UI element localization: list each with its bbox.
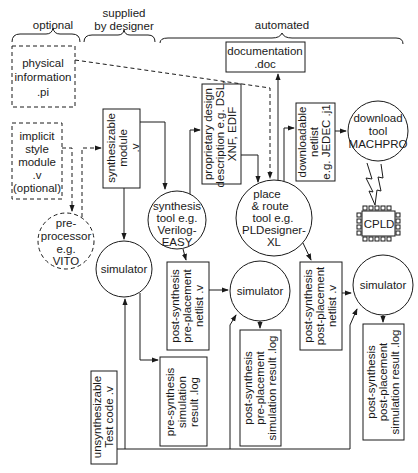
- svg-text:post-placement: post-placement: [377, 342, 389, 421]
- svg-text:synthesis: synthesis: [153, 200, 201, 212]
- header-automated: automated: [160, 19, 403, 44]
- svg-text:e.g.: e.g.: [56, 243, 75, 255]
- arrow-test-code-to-simulator2: [230, 315, 236, 449]
- svg-text:simulation result .log: simulation result .log: [389, 330, 401, 435]
- implicit-style-module-box: implicit style module .v (optional): [12, 123, 62, 199]
- arrow-synth-module-to-synthesis-tool: [140, 122, 165, 189]
- svg-text:unsynthesizable: unsynthesizable: [91, 376, 103, 458]
- arrow-synthesis-tool-to-netlist: [183, 249, 186, 260]
- svg-text:module: module: [18, 156, 56, 168]
- place-and-route-circle: place & route tool e.g. PLDesigner- XL: [236, 180, 312, 256]
- arrow-test-code-to-simulator3: [350, 309, 357, 449]
- svg-text:processor: processor: [41, 230, 92, 242]
- svg-text:synthesizable: synthesizable: [105, 113, 117, 183]
- svg-text:post-synthesis: post-synthesis: [365, 345, 377, 419]
- svg-text:MACHPRO: MACHPRO: [349, 138, 408, 150]
- svg-text:result .log: result .log: [188, 377, 200, 427]
- svg-text:description e.g. DSL,: description e.g. DSL,: [214, 81, 226, 188]
- cpld-chip-icon: CPLD: [357, 206, 400, 241]
- svg-text:post-placement: post-placement: [314, 266, 326, 345]
- svg-text:CPLD: CPLD: [364, 218, 395, 230]
- pre-synthesis-simulation-log-box: pre-synthesis simulation result .log: [160, 357, 207, 446]
- svg-text:style: style: [25, 143, 49, 155]
- arrow-implicit-to-preprocessor: [62, 148, 72, 211]
- downloadable-netlist-box: downloadable netlist e.g. JEDEC .j1: [296, 103, 335, 181]
- arrow-place-route-to-downloadable: [284, 128, 294, 181]
- svg-text:tool e.g.: tool e.g.: [157, 212, 198, 224]
- svg-text:information: information: [15, 71, 72, 83]
- proprietary-design-box: proprietary design description e.g. DSL,…: [202, 81, 241, 188]
- svg-text:& route: & route: [251, 200, 288, 212]
- arrow-proprietary-to-place-route: [241, 155, 258, 182]
- svg-text:simulator: simulator: [101, 263, 148, 275]
- svg-text:VITO: VITO: [53, 255, 80, 267]
- svg-text:XNF, EDIF: XNF, EDIF: [226, 107, 238, 161]
- svg-text:tool: tool: [369, 125, 388, 137]
- svg-text:netlist .v: netlist .v: [193, 285, 205, 327]
- svg-text:.v: .v: [33, 169, 42, 181]
- synthesis-tool-circle: synthesis tool e.g. Verilog- EASY: [148, 191, 206, 249]
- preprocessor-circle: pre- processor e.g. VITO: [38, 213, 94, 269]
- svg-text:.pi: .pi: [37, 86, 49, 98]
- post-synthesis-pre-placement-simulation-log-box: post-synthesis pre-placement simulation …: [240, 330, 281, 446]
- svg-text:physical: physical: [22, 57, 64, 69]
- post-synthesis-post-placement-simulation-log-box: post-synthesis post-placement simulation…: [363, 324, 404, 440]
- simulator-1-circle: simulator: [96, 241, 152, 297]
- documentation-box: documentation .doc: [226, 42, 305, 72]
- svg-text:download: download: [353, 112, 402, 124]
- simulator-2-circle: simulator: [230, 261, 290, 321]
- svg-text:post-synthesis: post-synthesis: [169, 269, 181, 343]
- arrow-preprocessor-to-synth-module: [82, 148, 101, 217]
- synthesizable-module-box: synthesizable module .v: [103, 109, 141, 188]
- physical-information-box: physical information .pi: [12, 46, 75, 107]
- design-flow-diagram: optional supplied by designer automated …: [0, 0, 418, 473]
- simulator-3-circle: simulator: [353, 255, 413, 315]
- svg-text:module: module: [117, 129, 129, 167]
- arrow-simulator1-to-log: [140, 293, 158, 360]
- svg-text:.v: .v: [129, 143, 141, 152]
- svg-text:post-synthesis: post-synthesis: [302, 269, 314, 343]
- svg-text:(optional): (optional): [13, 182, 61, 194]
- svg-text:tool e.g.: tool e.g.: [253, 212, 294, 224]
- svg-text:proprietary design: proprietary design: [202, 88, 214, 180]
- svg-text:automated: automated: [255, 19, 309, 31]
- svg-text:netlist .v: netlist .v: [326, 285, 338, 327]
- svg-text:simulation result .log: simulation result .log: [266, 336, 278, 441]
- svg-text:pre-placement: pre-placement: [254, 350, 266, 424]
- svg-text:pre-placement: pre-placement: [181, 268, 193, 342]
- arrow-synthesis-tool-to-proprietary: [190, 130, 200, 194]
- header-optional: optional: [12, 19, 80, 42]
- download-tool-circle: download tool MACHPRO: [348, 101, 408, 161]
- svg-text:post-synthesis: post-synthesis: [242, 351, 254, 425]
- svg-text:pre-synthesis: pre-synthesis: [164, 368, 176, 437]
- svg-text:simulation: simulation: [176, 376, 188, 428]
- svg-text:supplied: supplied: [103, 7, 146, 19]
- post-synthesis-pre-placement-netlist-box: post-synthesis pre-placement netlist .v: [167, 262, 209, 350]
- svg-text:simulator: simulator: [237, 285, 284, 297]
- svg-text:simulator: simulator: [360, 279, 407, 291]
- svg-text:.doc: .doc: [254, 58, 276, 70]
- svg-text:EASY: EASY: [162, 236, 193, 248]
- header-supplied: supplied by designer: [84, 7, 155, 42]
- svg-text:Test code .v: Test code .v: [103, 386, 115, 448]
- post-synthesis-post-placement-netlist-box: post-synthesis post-placement netlist .v: [300, 262, 342, 350]
- svg-text:place: place: [253, 188, 281, 200]
- test-code-box: unsynthesizable Test code .v: [91, 371, 117, 464]
- svg-text:XL: XL: [267, 236, 282, 248]
- arrow-test-code-to-simulator1: [117, 299, 125, 449]
- svg-text:PLDesigner-: PLDesigner-: [242, 224, 306, 236]
- svg-text:Verilog-: Verilog-: [158, 224, 197, 236]
- svg-text:implicit: implicit: [19, 130, 55, 142]
- svg-text:downloadable: downloadable: [296, 107, 308, 178]
- svg-text:e.g. JEDEC .j1: e.g. JEDEC .j1: [320, 104, 332, 179]
- svg-text:documentation: documentation: [227, 45, 302, 57]
- arrow-place-route-to-post-netlist: [303, 243, 311, 260]
- svg-text:pre-: pre-: [56, 217, 77, 229]
- svg-text:netlist: netlist: [308, 126, 320, 157]
- lightning-bolt-icon: [366, 163, 383, 205]
